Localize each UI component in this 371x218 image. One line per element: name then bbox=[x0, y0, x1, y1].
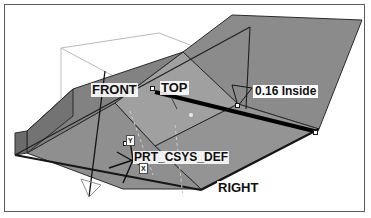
datum-label-top[interactable]: TOP bbox=[160, 81, 189, 95]
screenshot-root: FRONT TOP RIGHT 0.16 Inside PRT_CSYS_DEF… bbox=[0, 0, 371, 218]
cad-window-frame: FRONT TOP RIGHT 0.16 Inside PRT_CSYS_DEF… bbox=[4, 4, 365, 212]
dimension-value-label[interactable]: 0.16 Inside bbox=[253, 85, 318, 98]
cad-viewport[interactable]: FRONT TOP RIGHT 0.16 Inside PRT_CSYS_DEF… bbox=[5, 5, 364, 211]
datum-label-front[interactable]: FRONT bbox=[91, 83, 138, 97]
csys-axis-label-y: Y bbox=[126, 135, 135, 146]
handle-bend-vertex[interactable] bbox=[235, 103, 240, 108]
front-datum-plane-tab bbox=[81, 179, 101, 197]
handle-edge-end[interactable] bbox=[313, 130, 318, 135]
handle-top-plane[interactable] bbox=[150, 86, 155, 91]
cad-model-graphics[interactable] bbox=[5, 5, 364, 211]
csys-axis-label-x: X bbox=[139, 163, 148, 174]
datum-label-right[interactable]: RIGHT bbox=[217, 181, 259, 195]
surface-point-marker bbox=[189, 113, 193, 117]
csys-label[interactable]: PRT_CSYS_DEF bbox=[133, 151, 229, 164]
